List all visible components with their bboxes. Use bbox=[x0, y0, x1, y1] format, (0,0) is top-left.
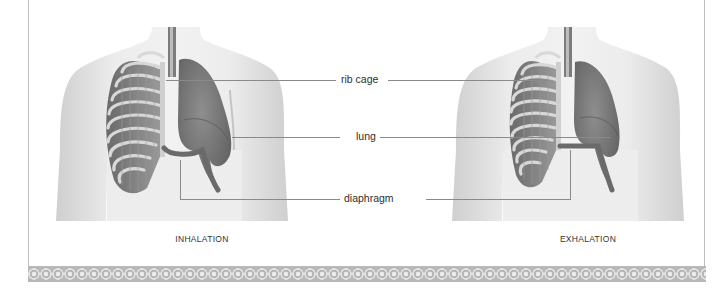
diaphragm-leader-left-vertical bbox=[180, 160, 181, 200]
lung-leader-right bbox=[380, 137, 610, 138]
label-diaphragm: diaphragm bbox=[340, 192, 398, 204]
decorative-border-strip bbox=[28, 266, 706, 282]
inhalation-torso-illustration bbox=[52, 0, 292, 225]
diaphragm-leader-left bbox=[180, 199, 340, 200]
lung-leader-left bbox=[232, 137, 340, 138]
exhalation-torso-illustration bbox=[448, 0, 688, 225]
label-lung: lung bbox=[352, 130, 380, 142]
diaphragm-leader-right-vertical bbox=[570, 150, 571, 200]
caption-exhalation: EXHALATION bbox=[528, 234, 648, 244]
rib-cage-leader-left bbox=[166, 80, 336, 81]
caption-inhalation: INHALATION bbox=[142, 234, 262, 244]
diaphragm-leader-right bbox=[426, 199, 570, 200]
label-rib-cage: rib cage bbox=[337, 73, 382, 85]
rib-cage-leader-right bbox=[388, 80, 548, 81]
